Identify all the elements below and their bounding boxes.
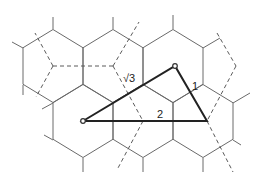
edge-stub <box>42 103 53 109</box>
edge-stub <box>203 38 220 48</box>
label-one: 1 <box>192 80 198 92</box>
edge-stub <box>233 140 241 145</box>
edge-stub <box>233 93 250 103</box>
dashed-line <box>35 33 53 66</box>
edge-stub <box>44 135 53 140</box>
dashed-line <box>207 66 236 121</box>
hexagon-edge-stubs <box>12 15 250 172</box>
hex-lattice-diagram: √3 1 2 <box>0 0 268 182</box>
edge-labels: √3 1 2 <box>123 72 198 120</box>
edge-stub <box>12 42 23 48</box>
label-two: 2 <box>157 108 163 120</box>
dashed-line <box>113 22 139 66</box>
vertex-marker <box>81 119 86 124</box>
dashed-line <box>207 121 233 172</box>
label-sqrt3: √3 <box>123 72 135 84</box>
vertex-marker <box>173 64 178 69</box>
dashed-lattice-lines <box>35 22 236 172</box>
dashed-line <box>36 66 53 97</box>
